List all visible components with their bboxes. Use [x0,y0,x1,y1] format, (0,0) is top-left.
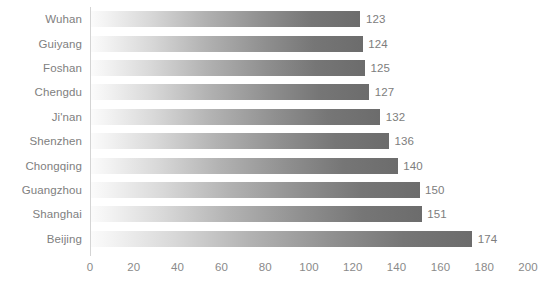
bar-track-jinan[interactable] [91,109,380,125]
value-label-shanghai: 151 [427,208,447,220]
bar-track-beijing[interactable] [91,231,472,247]
plot-area: Wuhan 123 Guiyang 124 Foshan 125 Chengdu [0,0,558,289]
value-label-beijing: 174 [478,233,498,245]
bar-track-chongqing[interactable] [91,158,398,174]
x-tick-label-120: 120 [343,261,363,273]
x-tick-label-80: 80 [259,261,272,273]
bar-row: Chengdu 127 [0,80,558,104]
x-tick-label-20: 20 [127,261,140,273]
category-label-shenzhen: Shenzhen [0,135,82,147]
category-label-shanghai: Shanghai [0,208,82,220]
x-tick-label-100: 100 [299,261,319,273]
bar-row: Shenzhen 136 [0,129,558,153]
x-tick-label-40: 40 [171,261,184,273]
value-label-jinan: 132 [386,111,406,123]
bar-shanghai[interactable] [91,206,422,222]
bar-track-shanghai[interactable] [91,206,422,222]
value-label-chongqing: 140 [403,160,423,172]
bar-row: Foshan 125 [0,56,558,80]
bar-track-wuhan[interactable] [91,11,360,27]
x-tick-label-140: 140 [387,261,407,273]
bar-row: Guangzhou 150 [0,178,558,202]
x-tick-label-60: 60 [215,261,228,273]
value-label-guiyang: 124 [368,38,388,50]
bar-chongqing[interactable] [91,158,398,174]
bar-chengdu[interactable] [91,84,369,100]
bar-row: Guiyang 124 [0,31,558,55]
value-label-wuhan: 123 [366,13,386,25]
bar-row: Chongqing 140 [0,153,558,177]
bar-track-chengdu[interactable] [91,84,369,100]
bar-foshan[interactable] [91,60,365,76]
x-tick-label-0: 0 [87,261,94,273]
bar-guiyang[interactable] [91,36,363,52]
bar-track-shenzhen[interactable] [91,133,389,149]
bar-guangzhou[interactable] [91,182,420,198]
category-label-beijing: Beijing [0,233,82,245]
category-label-jinan: Ji'nan [0,111,82,123]
bar-track-guiyang[interactable] [91,36,363,52]
bar-wuhan[interactable] [91,11,360,27]
bar-jinan[interactable] [91,109,380,125]
category-label-chengdu: Chengdu [0,86,82,98]
value-label-chengdu: 127 [375,86,395,98]
x-axis: 0 20 40 60 80 100 120 140 160 180 200 [0,256,558,289]
value-label-shenzhen: 136 [394,135,414,147]
bar-row: Ji'nan 132 [0,105,558,129]
bar-row: Wuhan 123 [0,7,558,31]
value-label-foshan: 125 [370,62,390,74]
bar-row: Beijing 174 [0,227,558,251]
bar-row: Shanghai 151 [0,202,558,226]
bar-track-foshan[interactable] [91,60,365,76]
bar-track-guangzhou[interactable] [91,182,420,198]
category-label-chongqing: Chongqing [0,160,82,172]
category-label-guiyang: Guiyang [0,38,82,50]
value-label-guangzhou: 150 [425,184,445,196]
bar-beijing[interactable] [91,231,472,247]
x-tick-label-200: 200 [518,261,538,273]
x-tick-label-160: 160 [431,261,451,273]
bar-chart: Wuhan 123 Guiyang 124 Foshan 125 Chengdu [0,0,558,289]
x-tick-label-180: 180 [474,261,494,273]
category-label-wuhan: Wuhan [0,13,82,25]
bar-shenzhen[interactable] [91,133,389,149]
category-label-guangzhou: Guangzhou [0,184,82,196]
category-label-foshan: Foshan [0,62,82,74]
